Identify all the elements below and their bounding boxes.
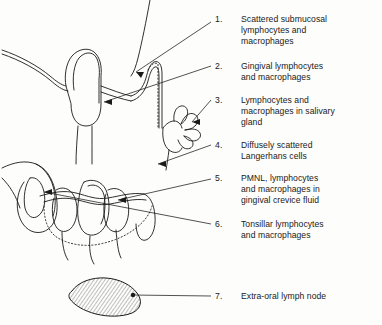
legend-item-5: 5. PMNL, lymphocytes and macrophages in … [215,173,320,206]
legend-number-4: 4. [215,140,241,151]
legend-text-4: Diffusely scattered Langerhans cells [241,140,312,162]
legend-number-2: 2. [215,61,241,72]
legend-text-2: Gingival lymphocytes and macrophages [241,61,323,83]
legend-text-6: Tonsillar lymphocytes and macrophages [241,219,324,241]
legend-text-3: Lymphocytes and macrophages in salivary … [241,95,335,128]
legend-item-3: 3. Lymphocytes and macrophages in saliva… [215,95,335,128]
legend-number-1: 1. [215,14,241,25]
legend-text-5: PMNL, lymphocytes and macrophages in gin… [241,173,320,206]
legend-text-7: Extra-oral lymph node [241,291,326,302]
legend-item-6: 6. Tonsillar lymphocytes and macrophages [215,219,324,241]
legend-number-5: 5. [215,173,241,184]
legend-item-7: 7. Extra-oral lymph node [215,291,326,302]
legend-number-7: 7. [215,291,241,302]
legend-number-6: 6. [215,219,241,230]
legend-number-3: 3. [215,95,241,106]
legend-item-2: 2. Gingival lymphocytes and macrophages [215,61,323,83]
legend-item-4: 4. Diffusely scattered Langerhans cells [215,140,312,162]
legend: 1. Scattered submucosal lymphocytes and … [0,0,382,325]
legend-text-1: Scattered submucosal lymphocytes and mac… [241,14,327,47]
legend-item-1: 1. Scattered submucosal lymphocytes and … [215,14,327,47]
